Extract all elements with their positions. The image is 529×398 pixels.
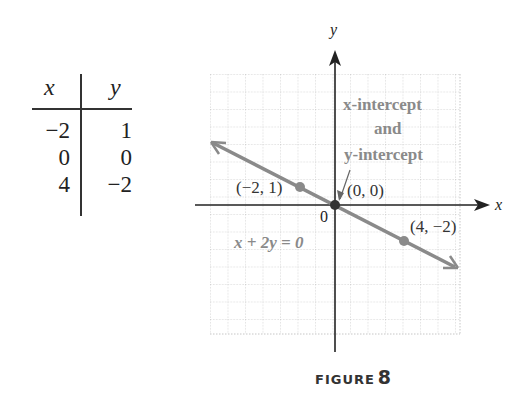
caption-word: FIGURE: [315, 372, 375, 387]
origin-label: 0: [320, 208, 328, 225]
equation-label: x + 2y = 0: [233, 233, 304, 252]
point-neg2-1: [295, 182, 305, 192]
point-origin: [330, 200, 340, 210]
point-label-neg2-1: (−2, 1): [236, 178, 282, 197]
point-label-4-neg2: (4, −2): [410, 217, 456, 236]
point-label-origin: (0, 0): [347, 181, 384, 200]
annotation-line1: x-intercept: [343, 95, 422, 114]
annotation-line3: y-intercept: [344, 145, 423, 164]
point-4-neg2: [399, 236, 409, 246]
caption-number: 8: [378, 366, 392, 388]
x-axis-label: x: [494, 196, 502, 213]
y-axis-label: y: [328, 21, 338, 39]
annotation-line2: and: [374, 119, 402, 138]
coordinate-graph: y x 0 (−2, 1) (0, 0) (4, −2) x + 2y = 0 …: [0, 0, 529, 398]
figure-caption: FIGURE8: [315, 366, 392, 388]
